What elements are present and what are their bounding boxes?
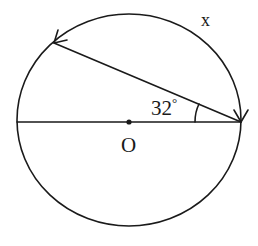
angle-value: 32 — [151, 96, 172, 120]
angle-arc — [195, 104, 199, 122]
degree-symbol: ° — [172, 95, 177, 110]
center-label: O — [121, 133, 136, 157]
circle-diagram: O 32° x — [0, 0, 258, 246]
angle-label: 32° — [151, 95, 177, 120]
chord — [54, 43, 241, 122]
arc-label: x — [201, 10, 210, 30]
center-point — [126, 119, 131, 124]
